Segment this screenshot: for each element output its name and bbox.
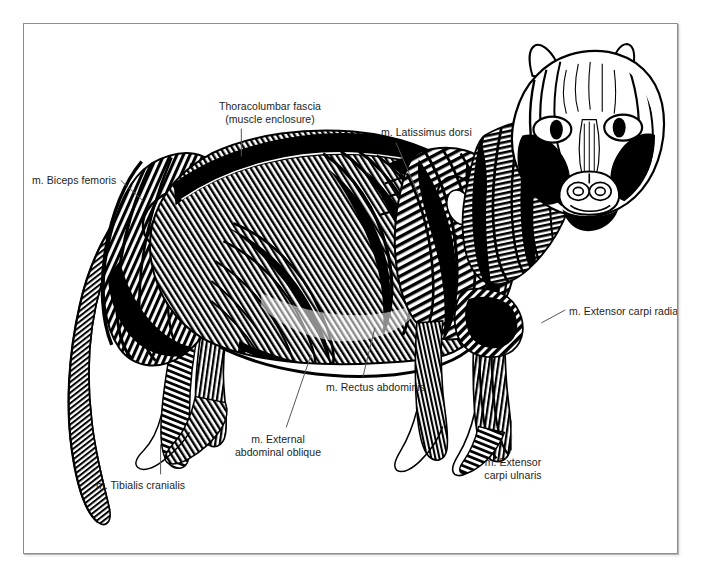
label-latissimus-dorsi: m. Latissimus dorsi xyxy=(381,126,491,139)
label-line-1: m. Extensor xyxy=(485,456,542,468)
leader-line-extensor-carpi-radialis xyxy=(541,310,565,323)
label-line-2: (muscle enclosure) xyxy=(225,113,315,125)
label-line-2: carpi ulnaris xyxy=(484,469,541,481)
label-thoracolumbar-fascia: Thoracolumbar fascia(muscle enclosure) xyxy=(202,100,338,125)
figure-stage: Thoracolumbar fascia(muscle enclosure)m.… xyxy=(24,24,677,553)
label-tibialis-cranialis: m. Tibialis cranialis xyxy=(96,479,206,492)
label-line-1: m. External xyxy=(251,433,305,445)
label-line-1: m. Tibialis cranialis xyxy=(96,479,185,491)
label-line-1: m. Extensor carpi radialis xyxy=(569,305,678,317)
label-line-2: abdominal oblique xyxy=(235,446,321,458)
leader-line-rectus-abdominis xyxy=(363,328,375,377)
label-line-1: m. Latissimus dorsi xyxy=(381,126,472,138)
label-external-abdominal-oblique: m. Externalabdominal oblique xyxy=(223,433,333,458)
leader-line-latissimus-dorsi xyxy=(396,143,419,196)
label-biceps-femoris: m. Biceps femoris xyxy=(32,174,132,187)
label-rectus-abdominis: m. Rectus abdominis xyxy=(326,381,446,394)
label-extensor-carpi-ulnaris: m. Extensorcarpi ulnaris xyxy=(466,456,560,481)
label-extensor-carpi-radialis: m. Extensor carpi radialis xyxy=(569,305,678,318)
leader-lines-layer xyxy=(24,24,677,553)
label-line-1: m. Biceps femoris xyxy=(32,174,116,186)
figure-plate: Thoracolumbar fascia(muscle enclosure)m.… xyxy=(23,23,678,554)
label-line-1: Thoracolumbar fascia xyxy=(219,100,321,112)
figure-caption xyxy=(24,566,664,580)
label-line-1: m. Rectus abdominis xyxy=(326,381,425,393)
leader-line-external-abdominal-oblique xyxy=(286,355,311,428)
